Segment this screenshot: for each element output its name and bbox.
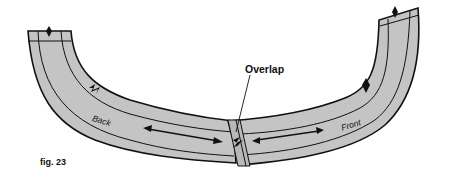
figure-caption: fig. 23 (40, 157, 66, 167)
notch-markers (46, 6, 398, 94)
overlap-label: Overlap (245, 63, 284, 75)
back-piece (28, 31, 236, 163)
figure-canvas: Overlap Back Front fig. 23 (0, 0, 453, 184)
pattern-diagram (0, 0, 453, 184)
